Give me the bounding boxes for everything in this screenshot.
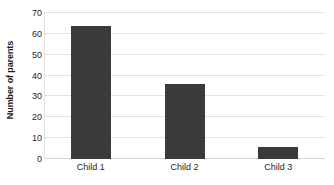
- x-axis-tick-label: Child 3: [233, 162, 323, 173]
- y-axis-tick-label: 10: [18, 134, 42, 143]
- bars: [44, 13, 325, 159]
- y-axis-tick-labels: 010203040506070: [18, 8, 42, 159]
- y-axis-tick-label: 0: [18, 155, 42, 164]
- y-axis-tick-label: 30: [18, 92, 42, 101]
- x-axis-tick-labels: Child 1Child 2Child 3: [44, 162, 325, 178]
- x-axis-tick-label: Child 2: [140, 162, 230, 173]
- y-axis-tick-label: 50: [18, 50, 42, 59]
- bar-chart: Number of parents 010203040506070 Child …: [0, 0, 334, 185]
- bar: [165, 84, 205, 159]
- y-axis-title: Number of parents: [0, 0, 20, 160]
- y-axis-title-text: Number of parents: [5, 41, 15, 119]
- y-axis-tick-label: 20: [18, 113, 42, 122]
- y-axis-tick-label: 70: [18, 9, 42, 18]
- bar: [258, 147, 298, 160]
- y-axis-tick-label: 60: [18, 29, 42, 38]
- bar: [71, 26, 111, 159]
- y-axis-tick-label: 40: [18, 71, 42, 80]
- plot-area: [44, 13, 325, 159]
- x-axis-tick-label: Child 1: [46, 162, 136, 173]
